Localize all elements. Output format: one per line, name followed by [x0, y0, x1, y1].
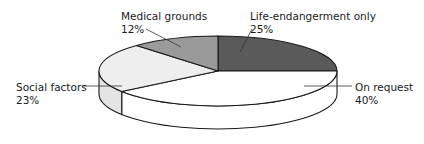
label-social-factors-value: 23%: [16, 94, 39, 106]
label-on-request-value: 40%: [355, 94, 378, 106]
label-medical-grounds-value: 12%: [121, 23, 144, 35]
pie-top-face: [99, 36, 337, 106]
label-life-endangerment-name: Life-endangerment only: [250, 10, 376, 22]
label-life-endangerment-value: 25%: [250, 23, 273, 35]
slice-life-endangerment: [218, 36, 337, 71]
label-on-request-name: On request: [355, 81, 413, 93]
label-medical-grounds-name: Medical grounds: [121, 10, 207, 22]
label-social-factors-name: Social factors: [16, 81, 87, 93]
pie-chart: Medical grounds 12% Life-endangerment on…: [0, 0, 424, 144]
